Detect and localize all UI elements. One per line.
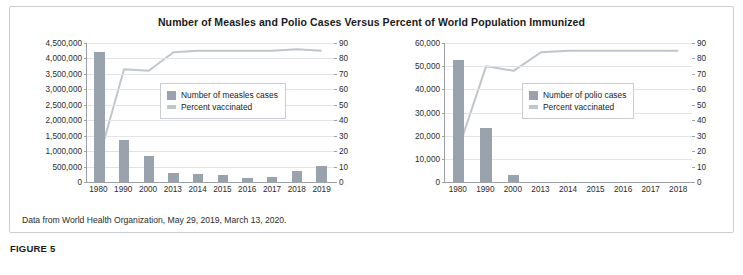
secondary-y-axis-tick-label: 50 [697, 100, 706, 109]
secondary-y-axis-tick-label: 90 [697, 39, 706, 48]
secondary-y-axis-tick-mark [334, 151, 337, 152]
source-note: Data from World Health Organization, May… [22, 215, 286, 225]
x-axis-labels-polio: 198019902000201320142015201620172018 [444, 185, 692, 201]
secondary-y-axis-tick-mark [692, 182, 695, 183]
secondary-y-axis-tick-label: 10 [697, 162, 706, 171]
y-axis-tick-label: 60,000 [415, 39, 440, 48]
y-axis-tick-label: 1,500,000 [46, 131, 82, 140]
y-axis-tick-label: 4,000,000 [46, 54, 82, 63]
secondary-y-axis-tick-mark [692, 43, 695, 44]
legend-label-bar: Number of measles cases [181, 89, 278, 101]
secondary-y-axis-tick-label: 0 [339, 178, 344, 187]
y-axis-tick-mark [84, 136, 87, 137]
bar [480, 128, 492, 182]
bar [508, 175, 520, 182]
secondary-y-axis-tick-label: 20 [697, 147, 706, 156]
x-axis-tick-label: 2014 [188, 185, 206, 194]
legend-swatch-line-icon [167, 105, 176, 109]
y-axis-tick-label: 1,000,000 [46, 147, 82, 156]
secondary-y-axis-tick-mark [692, 74, 695, 75]
x-axis-tick-label: 2016 [238, 185, 256, 194]
y-axis-tick-mark [84, 167, 87, 168]
bar [267, 177, 277, 182]
figure-panel: Number of Measles and Polio Cases Versus… [9, 6, 734, 233]
legend-polio: Number of polio cases Percent vaccinated [522, 83, 634, 119]
gridline [87, 120, 334, 121]
x-axis-tick-label: 2016 [614, 185, 632, 194]
secondary-y-axis-tick-label: 0 [697, 178, 702, 187]
secondary-y-axis-tick-label: 40 [339, 116, 348, 125]
secondary-y-axis-tick-label: 30 [339, 131, 348, 140]
secondary-y-axis-tick-label: 30 [697, 131, 706, 140]
secondary-y-axis-tick-mark [334, 89, 337, 90]
x-axis-tick-label: 2015 [213, 185, 231, 194]
x-axis-tick-label: 2017 [642, 185, 660, 194]
x-axis-tick-label: 2018 [288, 185, 306, 194]
secondary-y-axis-tick-label: 70 [339, 69, 348, 78]
bar [242, 178, 252, 182]
bar [316, 166, 326, 182]
bar [119, 140, 129, 182]
legend-item-bar: Number of polio cases [529, 89, 626, 101]
secondary-y-axis-tick-mark [334, 105, 337, 106]
x-axis-tick-label: 2000 [139, 185, 157, 194]
x-axis-tick-label: 2013 [531, 185, 549, 194]
x-axis-labels-measles: 1980199020002013201420152016201720182019 [86, 185, 334, 201]
x-axis-tick-label: 1980 [449, 185, 467, 194]
x-axis-tick-label: 2019 [312, 185, 330, 194]
secondary-y-axis-tick-mark [692, 89, 695, 90]
secondary-y-axis-tick-label: 70 [697, 69, 706, 78]
y-axis-tick-label: 2,500,000 [46, 100, 82, 109]
x-axis-tick-label: 2018 [669, 185, 687, 194]
secondary-y-axis-tick-mark [692, 136, 695, 137]
bar [94, 52, 104, 182]
secondary-y-axis-tick-mark [692, 58, 695, 59]
y-axis-tick-mark [84, 120, 87, 121]
legend-swatch-line-icon [529, 105, 538, 109]
secondary-y-axis-tick-label: 40 [697, 116, 706, 125]
secondary-y-axis-tick-label: 80 [339, 54, 348, 63]
y-axis-tick-label: 4,500,000 [46, 39, 82, 48]
y-axis-tick-mark [84, 105, 87, 106]
x-axis-tick-label: 2017 [263, 185, 281, 194]
y-axis-tick-label: 50,000 [415, 62, 440, 71]
y-axis-tick-label: 30,000 [415, 108, 440, 117]
chart-polio: 010,00020,00030,00040,00050,00060,000010… [378, 37, 726, 209]
legend-label-line: Percent vaccinated [181, 101, 252, 113]
y-axis-tick-label: 10,000 [415, 154, 440, 163]
y-axis-tick-mark [442, 113, 445, 114]
x-axis-tick-label: 1990 [476, 185, 494, 194]
secondary-y-axis-tick-mark [334, 74, 337, 75]
legend-label-bar: Number of polio cases [543, 89, 626, 101]
bar [168, 173, 178, 182]
y-axis-tick-mark [442, 89, 445, 90]
y-axis-tick-mark [84, 151, 87, 152]
y-axis-tick-mark [442, 136, 445, 137]
secondary-y-axis-tick-mark [334, 167, 337, 168]
y-axis-tick-label: 0 [77, 178, 82, 187]
secondary-y-axis-tick-mark [334, 136, 337, 137]
x-axis-tick-label: 1980 [89, 185, 107, 194]
y-axis-tick-mark [442, 66, 445, 67]
secondary-y-axis-tick-mark [334, 120, 337, 121]
gridline [87, 58, 334, 59]
y-axis-tick-label: 3,500,000 [46, 69, 82, 78]
secondary-y-axis-tick-mark [692, 120, 695, 121]
gridline [445, 66, 692, 67]
secondary-y-axis-tick-mark [692, 105, 695, 106]
y-axis-tick-label: 20,000 [415, 131, 440, 140]
secondary-y-axis-tick-mark [692, 151, 695, 152]
x-axis-tick-label: 2013 [164, 185, 182, 194]
legend-item-bar: Number of measles cases [167, 89, 278, 101]
bar [193, 174, 203, 182]
y-axis-tick-mark [442, 182, 445, 183]
secondary-y-axis-tick-label: 80 [697, 54, 706, 63]
secondary-y-axis-tick-label: 50 [339, 100, 348, 109]
gridline [445, 43, 692, 44]
bar [292, 171, 302, 182]
y-axis-tick-mark [84, 43, 87, 44]
legend-swatch-bar-icon [529, 91, 538, 100]
x-axis-tick-label: 2014 [559, 185, 577, 194]
secondary-y-axis-tick-mark [334, 182, 337, 183]
bar [144, 156, 154, 182]
